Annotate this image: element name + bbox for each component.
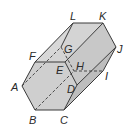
label-H: H bbox=[76, 60, 84, 72]
hexagonal-prism-diagram: A B C D E F G H I J K L bbox=[0, 0, 129, 131]
label-A: A bbox=[10, 81, 18, 93]
label-K: K bbox=[99, 10, 107, 22]
label-B: B bbox=[29, 114, 36, 126]
label-I: I bbox=[105, 70, 108, 82]
label-G: G bbox=[64, 43, 73, 55]
label-C: C bbox=[60, 114, 68, 126]
label-E: E bbox=[56, 64, 64, 76]
prism-faces bbox=[22, 23, 116, 110]
label-D: D bbox=[67, 83, 75, 95]
label-L: L bbox=[70, 10, 76, 22]
label-J: J bbox=[116, 43, 123, 55]
label-F: F bbox=[29, 50, 37, 62]
